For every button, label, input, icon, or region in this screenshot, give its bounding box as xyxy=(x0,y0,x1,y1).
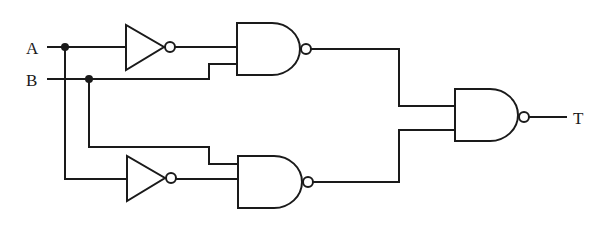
inverter-gate-1 xyxy=(126,25,175,70)
nand-gate-2 xyxy=(238,156,313,208)
junction-a xyxy=(61,43,69,51)
input-label-b: B xyxy=(26,71,37,90)
nand-gate-1 xyxy=(237,23,311,75)
junction-b xyxy=(85,75,93,83)
wire-a-to-inv2 xyxy=(65,47,126,179)
logic-circuit-diagram: A B T xyxy=(0,0,614,227)
wire-b-to-nand1 xyxy=(47,64,237,79)
nand-gate-3 xyxy=(455,89,529,141)
wire-b-to-nand2 xyxy=(89,79,237,164)
wire-nand2-to-nand3 xyxy=(313,130,455,182)
inverter-gate-2 xyxy=(127,156,176,201)
input-label-a: A xyxy=(26,39,39,58)
output-label-t: T xyxy=(573,109,584,128)
wire-nand1-to-nand3 xyxy=(311,49,455,106)
